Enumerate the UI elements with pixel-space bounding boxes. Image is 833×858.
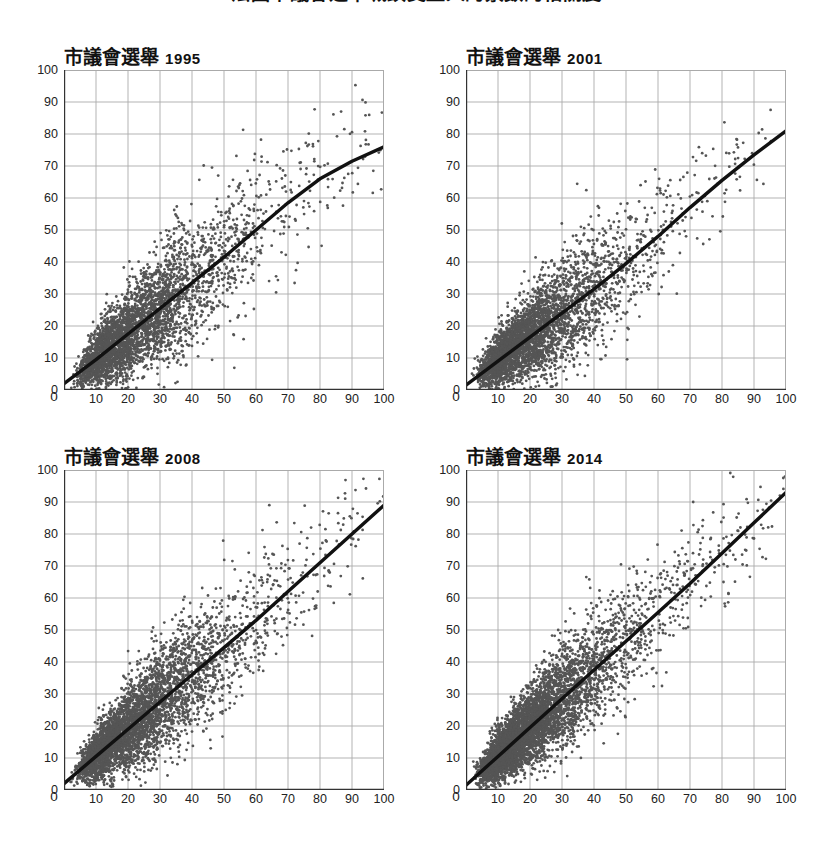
scatter-svg-2001 bbox=[466, 70, 786, 390]
y-tick-label: 100 bbox=[24, 463, 58, 477]
x-axis-ticks-1995: 0102030405060708090100 bbox=[64, 392, 384, 412]
x-tick-label: 70 bbox=[672, 392, 708, 406]
y-tick-label: 60 bbox=[426, 191, 460, 205]
y-tick-label: 40 bbox=[426, 255, 460, 269]
panel-title-year: 2001 bbox=[567, 50, 603, 67]
scatter-panel-1995: 市議會選舉19950102030405060708090100010203040… bbox=[18, 40, 408, 440]
x-tick-label: 10 bbox=[480, 792, 516, 806]
y-tick-label: 100 bbox=[426, 63, 460, 77]
y-tick-label: 40 bbox=[24, 655, 58, 669]
y-axis-ticks-2008: 0102030405060708090100 bbox=[18, 470, 58, 790]
y-tick-label: 20 bbox=[24, 719, 58, 733]
y-tick-label: 50 bbox=[426, 623, 460, 637]
x-tick-label: 100 bbox=[768, 392, 804, 406]
y-tick-label: 10 bbox=[426, 351, 460, 365]
scatter-panel-2008: 市議會選舉20080102030405060708090100010203040… bbox=[18, 440, 408, 840]
y-tick-label: 50 bbox=[24, 623, 58, 637]
panel-title-text: 市議會選舉 bbox=[64, 447, 159, 468]
x-tick-label: 30 bbox=[544, 792, 580, 806]
x-tick-label: 50 bbox=[608, 792, 644, 806]
x-tick-label: 40 bbox=[174, 392, 210, 406]
x-tick-label: 20 bbox=[512, 392, 548, 406]
y-tick-label: 70 bbox=[426, 159, 460, 173]
panel-title-year: 2008 bbox=[165, 450, 201, 467]
y-tick-label: 70 bbox=[24, 159, 58, 173]
y-tick-label: 40 bbox=[426, 655, 460, 669]
x-tick-label: 60 bbox=[238, 792, 274, 806]
x-tick-label: 50 bbox=[206, 392, 242, 406]
y-tick-label: 20 bbox=[24, 319, 58, 333]
x-tick-label: 90 bbox=[736, 792, 772, 806]
x-tick-label: 0 bbox=[438, 389, 474, 404]
panel-title-2014: 市議會選舉2014 bbox=[466, 442, 603, 469]
x-tick-label: 30 bbox=[142, 392, 178, 406]
y-tick-label: 20 bbox=[426, 719, 460, 733]
y-tick-label: 20 bbox=[426, 319, 460, 333]
panel-title-2008: 市議會選舉2008 bbox=[64, 442, 201, 469]
panel-title-text: 市議會選舉 bbox=[466, 47, 561, 68]
plot-area-2008 bbox=[64, 470, 384, 790]
y-tick-label: 90 bbox=[426, 95, 460, 109]
x-tick-label: 90 bbox=[334, 792, 370, 806]
y-axis-ticks-1995: 0102030405060708090100 bbox=[18, 70, 58, 390]
y-tick-label: 80 bbox=[24, 127, 58, 141]
scatter-svg-2008 bbox=[64, 470, 384, 790]
y-tick-label: 100 bbox=[426, 463, 460, 477]
plot-area-2014 bbox=[466, 470, 786, 790]
x-tick-label: 0 bbox=[438, 789, 474, 804]
x-tick-label: 60 bbox=[640, 392, 676, 406]
x-tick-label: 40 bbox=[576, 392, 612, 406]
figure-root: 法國市議會選舉城鎮受益人的票數的相關度 市議會選舉199501020304050… bbox=[0, 0, 833, 858]
y-tick-label: 10 bbox=[426, 751, 460, 765]
scatter-svg-2014 bbox=[466, 470, 786, 790]
x-axis-ticks-2014: 0102030405060708090100 bbox=[466, 792, 786, 812]
x-tick-label: 20 bbox=[110, 792, 146, 806]
y-tick-label: 90 bbox=[24, 495, 58, 509]
scatter-panel-2014: 市議會選舉20140102030405060708090100010203040… bbox=[420, 440, 810, 840]
scatter-svg-1995 bbox=[64, 70, 384, 390]
x-tick-label: 0 bbox=[36, 789, 72, 804]
x-tick-label: 30 bbox=[142, 792, 178, 806]
y-axis-ticks-2001: 0102030405060708090100 bbox=[420, 70, 460, 390]
x-tick-label: 90 bbox=[334, 392, 370, 406]
x-tick-label: 0 bbox=[36, 389, 72, 404]
y-tick-label: 30 bbox=[426, 687, 460, 701]
x-tick-label: 90 bbox=[736, 392, 772, 406]
x-axis-ticks-2001: 0102030405060708090100 bbox=[466, 392, 786, 412]
x-tick-label: 60 bbox=[640, 792, 676, 806]
x-tick-label: 100 bbox=[366, 392, 402, 406]
x-tick-label: 20 bbox=[110, 392, 146, 406]
y-tick-label: 30 bbox=[426, 287, 460, 301]
x-tick-label: 80 bbox=[302, 792, 338, 806]
y-tick-label: 10 bbox=[24, 351, 58, 365]
x-tick-label: 70 bbox=[672, 792, 708, 806]
figure-title: 法國市議會選舉城鎮受益人的票數的相關度 bbox=[0, 0, 833, 4]
y-axis-ticks-2014: 0102030405060708090100 bbox=[420, 470, 460, 790]
x-tick-label: 40 bbox=[576, 792, 612, 806]
y-tick-label: 50 bbox=[426, 223, 460, 237]
y-tick-label: 40 bbox=[24, 255, 58, 269]
x-tick-label: 50 bbox=[608, 392, 644, 406]
x-tick-label: 70 bbox=[270, 392, 306, 406]
x-tick-label: 80 bbox=[302, 392, 338, 406]
x-tick-label: 10 bbox=[78, 792, 114, 806]
x-tick-label: 40 bbox=[174, 792, 210, 806]
y-tick-label: 60 bbox=[24, 191, 58, 205]
panel-title-1995: 市議會選舉1995 bbox=[64, 42, 201, 69]
x-tick-label: 80 bbox=[704, 792, 740, 806]
y-tick-label: 50 bbox=[24, 223, 58, 237]
x-tick-label: 10 bbox=[78, 392, 114, 406]
x-tick-label: 50 bbox=[206, 792, 242, 806]
plot-area-2001 bbox=[466, 70, 786, 390]
y-tick-label: 90 bbox=[426, 495, 460, 509]
x-tick-label: 80 bbox=[704, 392, 740, 406]
y-tick-label: 70 bbox=[426, 559, 460, 573]
x-tick-label: 30 bbox=[544, 392, 580, 406]
x-tick-label: 100 bbox=[366, 792, 402, 806]
y-tick-label: 80 bbox=[24, 527, 58, 541]
x-tick-label: 60 bbox=[238, 392, 274, 406]
y-tick-label: 80 bbox=[426, 127, 460, 141]
y-tick-label: 90 bbox=[24, 95, 58, 109]
panel-title-year: 1995 bbox=[165, 50, 201, 67]
y-tick-label: 80 bbox=[426, 527, 460, 541]
